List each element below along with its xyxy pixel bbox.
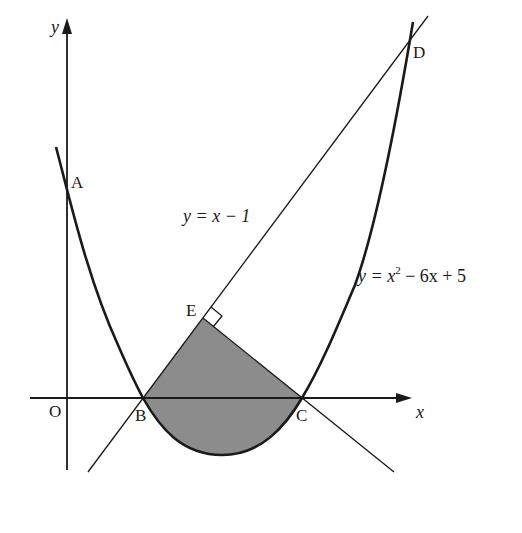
point-label-C: C — [296, 406, 307, 425]
x-axis-label: x — [415, 402, 424, 422]
point-label-A: A — [71, 173, 84, 192]
diagram-canvas: y x O A B C D E y = x − 1 y = x2 − 6x + … — [0, 0, 522, 533]
parabola-equation-lhs: y = x — [356, 266, 395, 286]
y-axis-arrow-icon — [62, 18, 72, 34]
y-axis-label: y — [49, 17, 59, 37]
point-label-D: D — [413, 43, 425, 62]
shaded-region — [143, 318, 302, 455]
x-axis-arrow-icon — [396, 393, 412, 403]
origin-label: O — [49, 402, 61, 421]
point-label-B: B — [135, 406, 146, 425]
point-label-E: E — [186, 301, 196, 320]
parabola-equation-label: y = x2 − 6x + 5 — [356, 264, 466, 286]
line-equation-text: y = x − 1 — [181, 206, 250, 226]
parabola-equation-rest: − 6x + 5 — [401, 266, 466, 286]
right-angle-marker — [211, 307, 222, 327]
line-equation-label: y = x − 1 — [181, 206, 250, 226]
